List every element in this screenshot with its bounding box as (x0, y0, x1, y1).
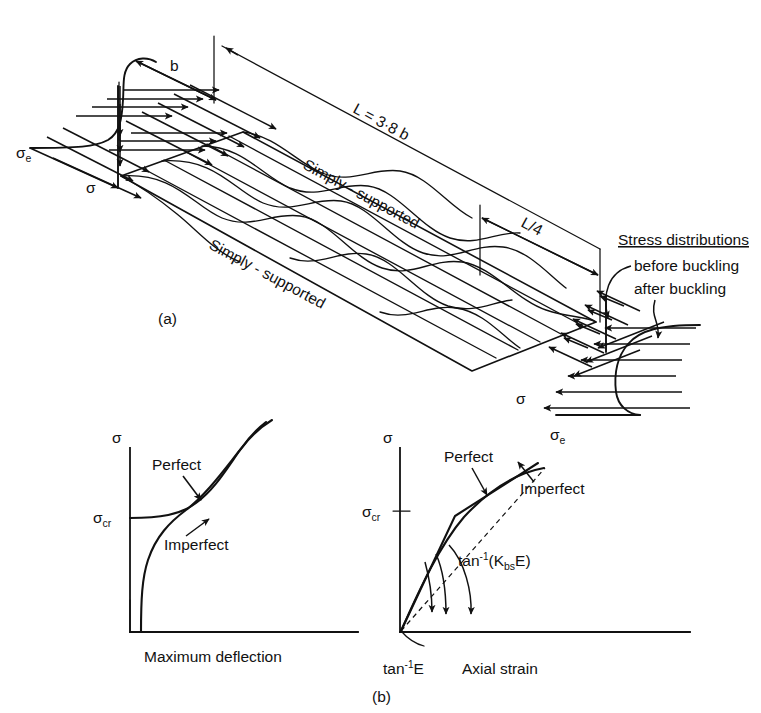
right-label-perfect: Perfect (444, 448, 494, 465)
panel-a: σe σ b L = 3·8 b L/4 Simply - (16, 36, 749, 446)
right-slope-e-label: tan-1E (383, 659, 424, 677)
left-label-imperfect: Imperfect (164, 536, 229, 553)
quarter-length-dimension: L/4 (480, 205, 600, 322)
right-slope-kbs-label: tan-1(KbsE) (458, 551, 531, 572)
right-graph-ycr-label: σcr (362, 503, 381, 523)
leader-after-buckling (654, 300, 659, 338)
panel-a-label: (a) (158, 310, 177, 327)
right-leader-perfect (472, 468, 487, 495)
right-stress-labels: σ σe (516, 390, 566, 446)
sigma-e-left-label: σe (16, 144, 32, 164)
left-graph-x-label: Maximum deflection (144, 648, 282, 665)
legend-before-buckling: before buckling (634, 257, 739, 274)
simply-supported-bottom-label: Simply - supported (207, 236, 329, 312)
edge-condition-labels: Simply - supported Simply - supported (207, 156, 423, 312)
right-stress-arrows (544, 291, 700, 415)
plate-surface (121, 132, 596, 371)
left-stress-labels: σe σ (16, 144, 96, 196)
left-graph-ycr-label: σcr (93, 509, 112, 529)
right-curve-perfect (401, 463, 538, 631)
sigma-right-label: σ (516, 390, 526, 407)
left-label-perfect: Perfect (152, 456, 202, 473)
plate-buckle-mesh (121, 132, 596, 358)
plate-buckling-figure: σe σ b L = 3·8 b L/4 Simply - (0, 0, 761, 713)
stress-legend: Stress distributions before buckling aft… (606, 231, 749, 338)
angle-arc-kbs (436, 554, 446, 614)
legend-after-buckling: after buckling (634, 280, 726, 297)
left-graph-y-label: σ (112, 429, 122, 446)
leader-before-buckling (606, 266, 631, 318)
figure-container: σe σ b L = 3·8 b L/4 Simply - (0, 0, 761, 713)
sigma-left-label: σ (86, 179, 96, 196)
left-leader-imperfect (186, 519, 209, 536)
legend-title: Stress distributions (618, 231, 749, 248)
right-label-imperfect: Imperfect (520, 480, 585, 497)
graph-axial-strain: σ σcr Perfect Imperfect tan-1(KbsE) tan-… (362, 429, 690, 677)
right-graph-y-label: σ (383, 429, 393, 446)
left-curve-imperfect (141, 420, 272, 632)
left-leader-perfect (183, 476, 201, 500)
sigma-e-right-label: σe (550, 426, 566, 446)
graph-max-deflection: σ σcr Perfect Imperfect Maximum deflecti… (93, 420, 358, 665)
simply-supported-top-label: Simply - supported (301, 156, 423, 232)
left-stress-arrows (30, 58, 276, 198)
right-graph-x-label: Axial strain (462, 660, 538, 677)
angle-arc-small (401, 631, 424, 646)
L-length-label: L = 3·8 b (351, 100, 413, 144)
b-label: b (170, 57, 179, 74)
panel-b-label: (b) (372, 688, 391, 705)
